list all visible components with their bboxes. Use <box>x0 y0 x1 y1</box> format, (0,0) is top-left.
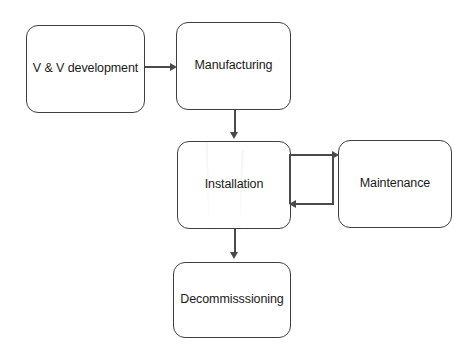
edge-installation-to-decommissioning-line <box>234 229 236 254</box>
node-label: Manufacturing <box>195 59 273 73</box>
edge-maintenance-to-installation-line <box>296 203 334 205</box>
edge-vv-to-manufacturing-arrowhead <box>170 63 177 71</box>
edge-installation-to-decommissioning-arrowhead <box>230 252 238 259</box>
edge-loop-left-riser <box>289 154 291 204</box>
node-vv-development[interactable]: V & V development <box>26 25 145 113</box>
edge-installation-to-maintenance-line <box>289 154 334 156</box>
edge-manufacturing-to-installation-line <box>234 110 236 134</box>
node-label: Maintenance <box>360 177 430 191</box>
node-decommissioning[interactable]: Decommisssioning <box>173 262 291 338</box>
node-manufacturing[interactable]: Manufacturing <box>176 22 291 110</box>
node-label: Decommisssioning <box>180 293 283 307</box>
edge-manufacturing-to-installation-arrowhead <box>230 132 238 139</box>
node-installation[interactable]: Installation <box>177 141 291 229</box>
edge-loop-right-riser <box>332 154 334 204</box>
node-label: Installation <box>205 178 264 192</box>
node-maintenance[interactable]: Maintenance <box>338 140 452 228</box>
edge-vv-to-manufacturing-line <box>145 66 171 68</box>
diagram-canvas: V & V development Manufacturing Installa… <box>0 0 474 363</box>
node-label: V & V development <box>33 62 138 76</box>
edge-maintenance-to-installation-arrowhead <box>289 200 296 208</box>
